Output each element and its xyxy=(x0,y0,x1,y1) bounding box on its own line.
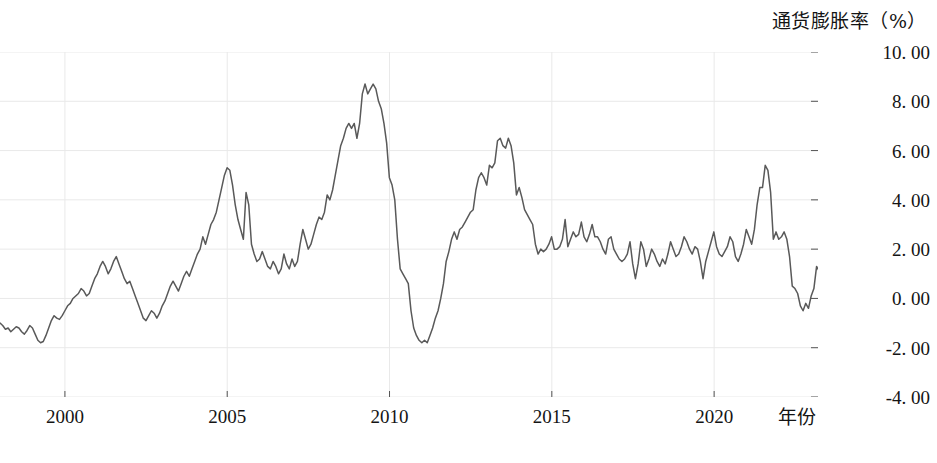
x-tick-label: 2015 xyxy=(507,405,597,429)
y-tick-label: 4. 00 xyxy=(822,191,930,210)
y-axis-title: 通货膨胀率（%） xyxy=(772,6,927,33)
grid-lines xyxy=(0,52,818,397)
tick-marks xyxy=(65,52,818,397)
x-tick-label: 2000 xyxy=(20,405,110,429)
y-tick-label: 6. 00 xyxy=(822,142,930,161)
y-tick-label: -2. 00 xyxy=(822,339,930,358)
plot-svg xyxy=(0,52,818,397)
x-tick-label: 2020 xyxy=(669,405,759,429)
y-tick-label: 10. 00 xyxy=(822,43,930,62)
plot-area xyxy=(0,52,818,397)
series-line xyxy=(0,84,818,343)
y-tick-label: 8. 00 xyxy=(822,92,930,111)
y-tick-label: 0. 00 xyxy=(822,289,930,308)
y-tick-label: 2. 00 xyxy=(822,240,930,259)
x-axis-title: 年份 xyxy=(778,405,816,429)
x-axis-tick-labels: 年份 20002005201020152020 xyxy=(0,405,937,435)
chart-figure: 通货膨胀率（%） 10. 008. 006. 004. 002. 000. 00… xyxy=(0,0,937,463)
x-tick-label: 2005 xyxy=(182,405,272,429)
y-axis-tick-labels: 10. 008. 006. 004. 002. 000. 00-2. 00-4.… xyxy=(822,52,934,397)
x-tick-label: 2010 xyxy=(345,405,435,429)
series-lines xyxy=(0,84,818,343)
